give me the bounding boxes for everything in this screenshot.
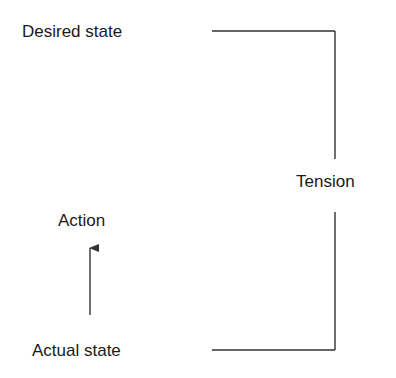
actual-state-label: Actual state — [32, 341, 121, 361]
desired-state-label: Desired state — [22, 22, 122, 42]
tension-label: Tension — [296, 172, 355, 192]
action-label: Action — [58, 211, 105, 231]
